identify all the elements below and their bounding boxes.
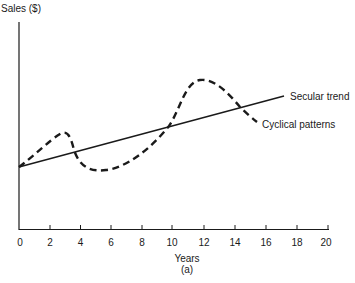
chart-canvas: Sales ($) 0 2 4 6 8 10 12 14 16 18 20 Ye… — [0, 0, 355, 283]
x-ticks — [50, 225, 328, 229]
x-tick-label: 0 — [17, 237, 23, 248]
x-tick-label: 6 — [108, 237, 114, 248]
cyclical-patterns-label: Cyclical patterns — [262, 119, 335, 130]
x-tick-label: 14 — [229, 237, 241, 248]
x-tick-label: 4 — [78, 237, 84, 248]
y-axis-label: Sales ($) — [1, 3, 41, 14]
x-tick-label: 20 — [320, 237, 332, 248]
x-tick-label: 18 — [291, 237, 303, 248]
x-axis-label: Years — [174, 253, 199, 264]
x-tick-label: 12 — [198, 237, 210, 248]
secular-trend-label: Secular trend — [290, 91, 349, 102]
x-tick-label: 16 — [260, 237, 272, 248]
x-tick-label: 2 — [47, 237, 53, 248]
x-tick-label: 8 — [139, 237, 145, 248]
x-tick-labels: 0 2 4 6 8 10 12 14 16 18 20 — [17, 237, 332, 248]
secular-trend-line — [19, 96, 284, 167]
figure-caption: (a) — [181, 264, 193, 275]
x-tick-label: 10 — [166, 237, 178, 248]
